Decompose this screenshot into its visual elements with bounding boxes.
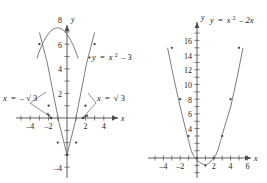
- x-tick-label: 4: [229, 162, 233, 171]
- annot-radicand: 3: [121, 93, 125, 103]
- chart-panel-left: –4 –2 2 4 2 4 6 8 –4 x y y = x 2 – 3: [0, 0, 134, 183]
- y-tick-label: 6: [58, 41, 62, 50]
- annotation-pos-root: x = √ 3: [83, 93, 125, 117]
- y-axis-arrow: [195, 22, 200, 28]
- data-point: [75, 142, 77, 144]
- annot-var: x: [2, 93, 7, 103]
- right-axes: [148, 22, 251, 178]
- right-data-points: [171, 47, 240, 167]
- y-tick-label: 14: [184, 52, 192, 61]
- x-tick-label: 6: [245, 162, 249, 171]
- y-tick-label: 8: [58, 16, 62, 25]
- x-tick-label: 2: [212, 162, 216, 171]
- data-point: [196, 157, 198, 159]
- right-parabola-svg: –4 –2 2 4 6 4 6 8 10 12 14 16 x y y = x …: [134, 0, 267, 183]
- eq-exponent: 2: [115, 52, 118, 58]
- y-tick-label: –4: [53, 164, 62, 173]
- x-axis-arrow: [245, 156, 251, 161]
- right-curve: [168, 48, 243, 166]
- x-axis-label: x: [253, 154, 258, 163]
- data-point: [238, 47, 240, 49]
- data-point: [38, 43, 40, 45]
- data-point: [57, 142, 59, 144]
- data-point: [84, 105, 86, 107]
- figure-root: –4 –2 2 4 2 4 6 8 –4 x y y = x 2 – 3: [0, 0, 267, 183]
- y-tick-label: 16: [184, 37, 192, 46]
- eq-tail: – 3: [120, 52, 132, 62]
- data-point: [221, 135, 223, 137]
- y-tick-label: 4: [58, 65, 62, 74]
- y-tick-label: 4: [188, 125, 192, 134]
- annotation-neg-root: x = – √ 3: [2, 92, 51, 117]
- eq-operator: =: [218, 15, 223, 25]
- y-tick-label: 12: [184, 66, 192, 75]
- eq-tail: – 2x: [238, 15, 254, 25]
- data-point: [188, 135, 190, 137]
- data-point: [213, 157, 215, 159]
- x-tick-label: –4: [158, 162, 167, 171]
- annotation-leader: [88, 93, 96, 103]
- equation-anchor-dot: [88, 56, 90, 58]
- eq-lhs: y: [91, 52, 96, 62]
- svg-text:x = √: x = √ 3: [96, 93, 125, 103]
- x-tick-label: –2: [44, 122, 53, 131]
- y-axis-arrow: [65, 25, 70, 31]
- root-marker-neg: [50, 117, 52, 119]
- chart-panel-right: –4 –2 2 4 6 4 6 8 10 12 14 16 x y y = x …: [134, 0, 267, 183]
- y-tick-label: 2: [58, 90, 62, 99]
- right-equation-label: y = x 2 – 2x: [209, 12, 254, 25]
- data-point: [94, 43, 96, 45]
- data-point: [230, 98, 232, 100]
- data-point: [66, 154, 68, 156]
- y-tick-label: 10: [184, 81, 192, 90]
- eq-base: x: [108, 52, 113, 62]
- x-tick-label: –4: [25, 122, 34, 131]
- data-point: [48, 105, 50, 107]
- data-point: [204, 164, 206, 166]
- y-axis-label: y: [200, 13, 205, 22]
- annot-var: x: [96, 93, 101, 103]
- eq-base: x: [226, 15, 231, 25]
- svg-text:y = x: y = x 2 – 3: [91, 49, 132, 62]
- x-tick-label: –2: [175, 162, 184, 171]
- y-tick-label: 8: [188, 96, 192, 105]
- root-marker-pos: [82, 117, 84, 119]
- left-parabola-svg: –4 –2 2 4 2 4 6 8 –4 x y y = x 2 – 3: [0, 0, 134, 183]
- x-tick-label: 2: [83, 122, 87, 131]
- data-point: [171, 47, 173, 49]
- eq-exponent: 2: [233, 15, 236, 21]
- y-tick-label: 6: [188, 110, 192, 119]
- y-axis-label: y: [70, 15, 75, 24]
- annot-radicand: 3: [33, 93, 37, 103]
- eq-operator: =: [100, 52, 105, 62]
- x-axis-label: x: [120, 114, 125, 123]
- eq-lhs: y: [209, 15, 214, 25]
- data-point: [179, 98, 181, 100]
- svg-text:y = x: y = x 2 – 2x: [209, 12, 254, 25]
- x-tick-label: 4: [102, 122, 106, 131]
- left-equation-label: y = x 2 – 3: [91, 49, 132, 62]
